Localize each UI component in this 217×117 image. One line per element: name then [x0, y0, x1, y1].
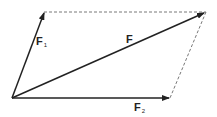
label-f1-main: F — [36, 35, 43, 47]
dashed-parallelogram-edges — [44, 12, 206, 98]
label-f: F — [126, 34, 133, 45]
label-f2: F2 — [134, 102, 145, 114]
vector-diagram-svg — [0, 0, 217, 117]
label-f1-subscript: 1 — [44, 42, 47, 48]
force-parallelogram-diagram: F1 F F2 — [0, 0, 217, 117]
label-f2-subscript: 2 — [142, 108, 145, 114]
label-f2-main: F — [134, 101, 141, 113]
vector-f-resultant-arrow — [12, 13, 204, 98]
label-f1: F1 — [36, 36, 47, 48]
label-f-main: F — [126, 33, 133, 45]
